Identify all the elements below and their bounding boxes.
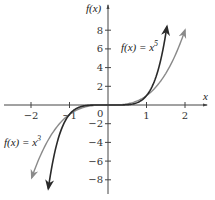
y-tick-label: 6 <box>97 43 103 54</box>
label-x-cubed: f(x) = x3 <box>4 134 41 149</box>
label-x-fifth: f(x) = x5 <box>121 39 158 54</box>
x-tick-label: 2 <box>182 110 188 121</box>
y-tick-label: −4 <box>88 137 103 148</box>
x-tick-label: 1 <box>143 110 149 121</box>
x-axis-label: x <box>202 90 208 102</box>
y-tick-label: 4 <box>97 62 103 73</box>
y-axis-label: f(x) <box>86 2 102 15</box>
chart: f(x) x 0 −2−112−8−6−4−22468 f(x) = x5 f(… <box>0 0 215 200</box>
y-tick-label: −6 <box>88 156 103 167</box>
y-tick-label: −2 <box>88 118 103 129</box>
x-tick-label: −2 <box>24 110 39 121</box>
y-tick-label: −8 <box>88 174 103 185</box>
y-tick-label: 2 <box>97 81 103 92</box>
y-tick-label: 8 <box>97 25 103 36</box>
